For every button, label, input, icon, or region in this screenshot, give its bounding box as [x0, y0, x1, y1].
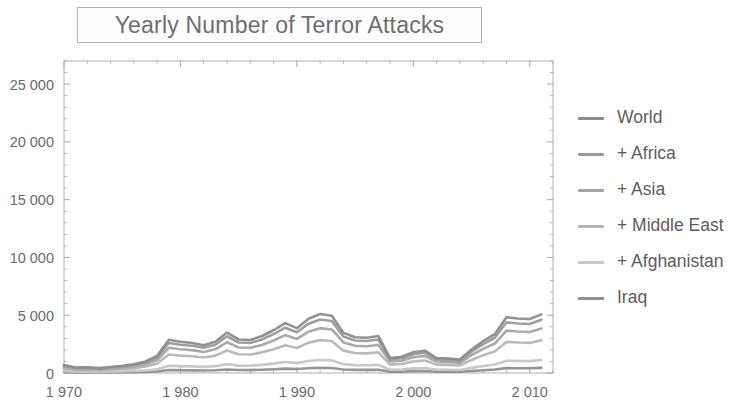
x-axis-tick-label: 1 990	[279, 384, 315, 400]
legend-item-label: + Africa	[617, 145, 676, 163]
legend-swatch-iraq	[578, 297, 604, 300]
y-axis-tick-label: 0	[46, 366, 54, 382]
x-axis-tick-label: 1 970	[46, 384, 82, 400]
legend-swatch-africa	[578, 153, 604, 156]
legend-item: + Middle East	[578, 208, 755, 244]
legend-swatch-asia	[578, 189, 604, 192]
plot-frame	[64, 61, 553, 373]
y-axis-tick-label: 5 000	[18, 308, 54, 324]
chart-legend: World+ Africa+ Asia+ Middle East+ Afghan…	[578, 100, 755, 316]
legend-item-label: World	[617, 109, 662, 127]
legend-item-label: + Afghanistan	[617, 253, 724, 271]
axis-ticks	[64, 61, 553, 373]
legend-swatch-afghanistan	[578, 261, 604, 264]
y-axis-tick-label: 15 000	[10, 192, 54, 208]
y-axis-tick-label: 20 000	[10, 134, 54, 150]
page-title: Yearly Number of Terror Attacks	[115, 12, 445, 39]
legend-swatch-middle-east	[578, 225, 604, 228]
chart-title-box: Yearly Number of Terror Attacks	[77, 7, 482, 43]
x-axis-tick-label: 1 980	[162, 384, 198, 400]
legend-item-label: + Asia	[617, 181, 665, 199]
legend-item-label: + Middle East	[617, 217, 724, 235]
legend-item: + Asia	[578, 172, 755, 208]
legend-item-label: Iraq	[617, 289, 647, 307]
y-axis-tick-label: 10 000	[10, 250, 54, 266]
y-axis-tick-label: 25 000	[10, 77, 54, 93]
plot-area: 05 00010 00015 00020 00025 0001 9701 980…	[0, 48, 570, 406]
legend-item: Iraq	[578, 280, 755, 316]
legend-item: + Afghanistan	[578, 244, 755, 280]
legend-item: World	[578, 100, 755, 136]
legend-item: + Africa	[578, 136, 755, 172]
x-axis-tick-label: 2 010	[512, 384, 548, 400]
x-axis-tick-label: 2 000	[395, 384, 431, 400]
chart-figure: Yearly Number of Terror Attacks 05 00010…	[0, 0, 755, 406]
legend-swatch-world	[578, 117, 604, 120]
plot-svg: 05 00010 00015 00020 00025 0001 9701 980…	[0, 48, 570, 406]
